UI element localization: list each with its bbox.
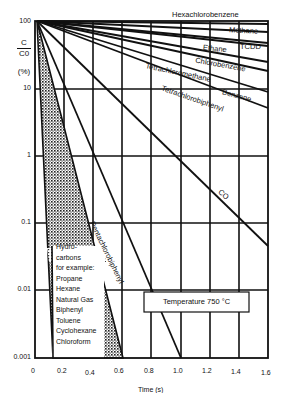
label-methane: Methane xyxy=(229,25,259,36)
x-tick: 1.2 xyxy=(202,367,212,374)
y-tick: 100 xyxy=(19,17,31,24)
x-tick: 1.4 xyxy=(231,368,241,375)
y-label-den: C0 xyxy=(14,49,34,59)
band-item: Hexane xyxy=(56,284,96,295)
band-title-line: carbons xyxy=(56,253,96,264)
y-label-unit: (%) xyxy=(14,67,34,77)
x-tick: 0.8 xyxy=(144,367,154,374)
band-title-line: for example: xyxy=(56,263,96,274)
x-tick: 0 xyxy=(31,367,35,374)
band-item: Propane xyxy=(56,274,96,285)
band-item: Chloroform xyxy=(56,337,96,348)
temperature-label: Temperature 750 °C xyxy=(144,297,249,306)
band-title-line: Hydro- xyxy=(56,242,96,253)
x-tick: 1.6 xyxy=(261,369,271,376)
y-tick: 10 xyxy=(23,84,31,91)
y-label-num: C xyxy=(14,38,34,48)
y-tick: 0.01 xyxy=(17,285,31,292)
y-tick: 0.1 xyxy=(21,218,31,225)
label-tcdd: TCDD xyxy=(240,42,261,51)
y-axis-label: C C0 (%) xyxy=(14,38,34,77)
band-item: Toluene xyxy=(56,316,96,327)
y-tick: 0.001 xyxy=(13,353,31,360)
label-hexachlorobenzene: Hexachlorobenzene xyxy=(172,10,239,19)
band-item: Natural Gas xyxy=(56,295,96,306)
x-tick: 0.4 xyxy=(85,369,95,376)
x-axis-label: Time (s) xyxy=(138,386,163,393)
band-item: Cyclohexane xyxy=(56,326,96,337)
band-item: Biphenyl xyxy=(56,305,96,316)
x-tick: 0.6 xyxy=(114,367,124,374)
hydrocarbons-label: Hydro- carbons for example: Propane Hexa… xyxy=(56,242,96,347)
x-tick: 1.0 xyxy=(173,367,183,374)
x-tick: 0.2 xyxy=(57,367,67,374)
y-tick: 1 xyxy=(27,151,31,158)
